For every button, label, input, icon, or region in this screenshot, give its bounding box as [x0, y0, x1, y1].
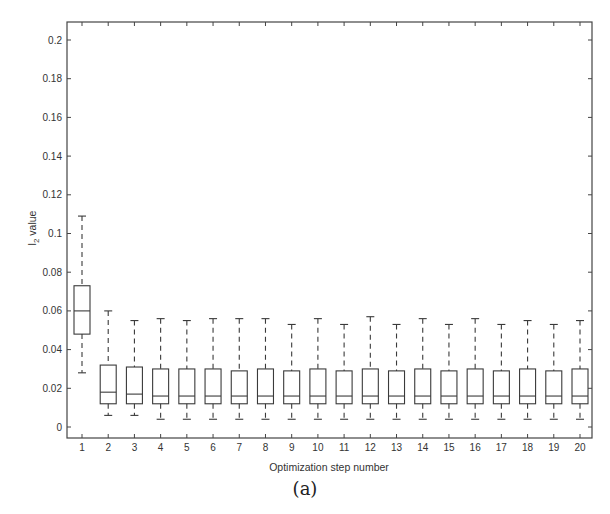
box-step-8 [257, 319, 273, 420]
x-tick-label: 9 [289, 442, 295, 453]
x-axis: 1234567891011121314151617181920 [79, 22, 586, 453]
box-step-2 [100, 311, 116, 415]
iqr-box [467, 369, 483, 404]
x-tick-label: 15 [443, 442, 455, 453]
x-tick-label: 4 [158, 442, 164, 453]
x-tick-label: 11 [339, 442, 350, 453]
box-step-19 [546, 324, 562, 419]
box-step-17 [493, 324, 509, 419]
plot-area [67, 22, 592, 438]
plot-frame [67, 22, 592, 438]
y-tick-label: 0.2 [48, 35, 62, 46]
box-step-3 [126, 321, 142, 416]
x-tick-label: 16 [470, 442, 482, 453]
x-tick-label: 18 [522, 442, 534, 453]
iqr-box [257, 369, 273, 404]
iqr-box [389, 371, 405, 404]
x-axis-title: Optimization step number [269, 461, 389, 473]
iqr-box [179, 369, 195, 404]
iqr-box [572, 369, 588, 404]
x-tick-label: 10 [312, 442, 324, 453]
box-step-9 [284, 324, 300, 419]
box-step-4 [153, 319, 169, 420]
box-step-12 [362, 317, 378, 420]
x-tick-label: 5 [184, 442, 190, 453]
y-tick-label: 0.06 [43, 305, 63, 316]
iqr-box [205, 369, 221, 404]
x-tick-label: 17 [496, 442, 508, 453]
iqr-box [126, 367, 142, 404]
iqr-box [336, 371, 352, 404]
box-step-20 [572, 321, 588, 420]
x-tick-label: 1 [79, 442, 85, 453]
x-tick-label: 8 [263, 442, 269, 453]
box-step-6 [205, 319, 221, 420]
x-tick-label: 19 [548, 442, 560, 453]
box-step-7 [231, 319, 247, 420]
x-tick-label: 13 [391, 442, 403, 453]
y-tick-label: 0.1 [48, 228, 62, 239]
iqr-box [310, 369, 326, 404]
iqr-box [493, 371, 509, 404]
iqr-box [74, 286, 90, 334]
box-step-11 [336, 324, 352, 419]
box-step-1 [74, 216, 90, 373]
box-step-5 [179, 321, 195, 420]
x-tick-label: 7 [236, 442, 242, 453]
y-tick-label: 0.14 [43, 151, 63, 162]
iqr-box [546, 371, 562, 404]
y-axis-title: l2 value [26, 210, 41, 245]
iqr-box [231, 371, 247, 404]
box-step-13 [389, 324, 405, 419]
x-tick-label: 12 [365, 442, 377, 453]
box-step-18 [520, 321, 536, 420]
y-tick-label: 0.08 [43, 267, 63, 278]
iqr-box [520, 369, 536, 404]
x-tick-label: 14 [417, 442, 429, 453]
iqr-box [284, 371, 300, 404]
box-step-16 [467, 319, 483, 420]
box-step-10 [310, 319, 326, 420]
x-tick-label: 20 [574, 442, 586, 453]
box-series [74, 216, 588, 419]
x-tick-label: 3 [132, 442, 138, 453]
x-tick-label: 2 [105, 442, 111, 453]
iqr-box [441, 371, 457, 404]
y-tick-label: 0 [56, 422, 62, 433]
iqr-box [415, 369, 431, 404]
iqr-box [100, 365, 116, 404]
figure-caption: (a) [0, 478, 610, 499]
y-tick-label: 0.12 [43, 189, 63, 200]
boxplot-chart: 00.020.040.060.080.10.120.140.160.180.2 … [0, 0, 610, 514]
y-tick-label: 0.18 [43, 73, 63, 84]
iqr-box [153, 369, 169, 404]
y-tick-label: 0.04 [43, 344, 63, 355]
box-step-14 [415, 319, 431, 420]
x-tick-label: 6 [210, 442, 216, 453]
box-step-15 [441, 324, 457, 419]
iqr-box [362, 369, 378, 404]
y-tick-label: 0.16 [43, 112, 63, 123]
y-axis-title-rest: value [26, 210, 38, 238]
y-tick-label: 0.02 [43, 383, 63, 394]
